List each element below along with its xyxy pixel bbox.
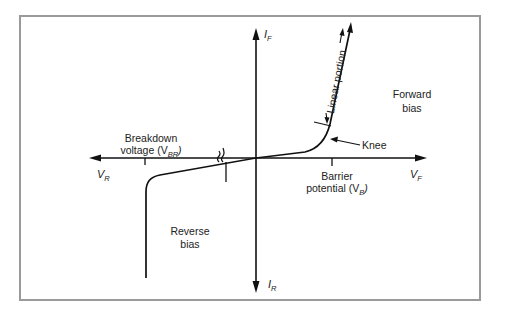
barrier-potential-label: Barrier potential (VB) xyxy=(297,170,377,199)
forward-bias-label: Forward bias xyxy=(384,88,440,114)
barrier-close: ) xyxy=(364,182,368,194)
barrier-text: potential (V xyxy=(306,182,359,194)
knee-pointer-line xyxy=(336,140,360,145)
knee-label: Knee xyxy=(362,139,387,151)
diode-characteristic-diagram: IF IR VF VR Forward bias Reverse bias Br… xyxy=(0,0,519,317)
vf-axis-label: VF xyxy=(410,168,422,185)
linear-start-marker xyxy=(314,122,331,126)
vr-arrowhead-icon xyxy=(89,155,101,162)
breakdown-subscript: BR xyxy=(168,150,178,159)
linear-top-arrowhead-icon xyxy=(347,22,353,33)
ir-axis-label: IR xyxy=(268,278,276,295)
breakdown-close: ) xyxy=(178,144,182,156)
reverse-bias-line2: bias xyxy=(162,238,218,250)
ir-subscript: R xyxy=(271,284,276,293)
vr-axis-label: VR xyxy=(97,168,110,185)
ir-arrowhead-icon xyxy=(253,281,260,293)
forward-bias-line2: bias xyxy=(384,102,440,114)
vf-arrowhead-icon xyxy=(415,155,427,162)
breakdown-line1: Breakdown xyxy=(106,132,196,144)
if-axis-label: IF xyxy=(264,28,272,45)
if-arrowhead-icon xyxy=(253,28,260,40)
axis-break-icon xyxy=(218,148,225,162)
reverse-curve xyxy=(146,158,256,278)
knee-arrowhead-icon xyxy=(330,137,338,143)
diagram-canvas xyxy=(0,0,519,317)
breakdown-line2: voltage (VBR) xyxy=(106,144,196,161)
breakdown-text: voltage (V xyxy=(120,144,167,156)
reverse-bias-line1: Reverse xyxy=(162,225,218,237)
barrier-line2: potential (VB) xyxy=(297,182,377,199)
reverse-bias-label: Reverse bias xyxy=(162,225,218,250)
linear-dim-top-arrowhead-icon xyxy=(340,28,345,36)
linear-bottom-arrowhead-icon xyxy=(325,117,330,124)
barrier-line1: Barrier xyxy=(297,170,377,182)
breakdown-voltage-label: Breakdown voltage (VBR) xyxy=(106,132,196,161)
vf-subscript: F xyxy=(417,174,422,183)
knee-text: Knee xyxy=(362,139,387,151)
if-subscript: F xyxy=(267,34,272,43)
forward-bias-line1: Forward xyxy=(384,88,440,100)
vr-subscript: R xyxy=(104,174,109,183)
